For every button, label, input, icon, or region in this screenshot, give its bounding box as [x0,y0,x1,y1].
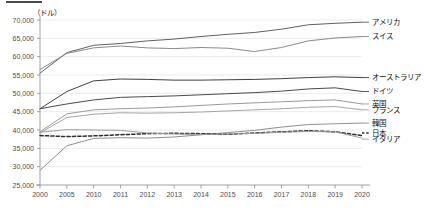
series-line-4 [40,100,362,132]
x-tick-label: 2013 [166,191,182,198]
series-label-6: 韓国 [372,118,386,128]
series-label-2: オーストラリア [372,73,421,82]
x-tick-label: 2010 [86,191,102,198]
y-tick-label: 60,000 [13,53,35,60]
gdp-per-capita-line-chart: 25,00030,00035,00040,00045,00050,00055,0… [0,0,424,208]
x-tick-label: 2000 [32,191,48,198]
y-tick-label: 35,000 [13,145,35,152]
y-axis-unit-label: （ドル） [33,9,61,18]
x-tick-labels: 2000200520102011201220132014201520162017… [32,191,370,198]
y-tick-marks [37,20,40,185]
x-tick-label: 2019 [327,191,343,198]
chart-canvas: 25,00030,00035,00040,00045,00050,00055,0… [0,0,424,208]
series-legend-labels: アメリカスイスオーストラリアドイツ英国フランス韓国日本イタリア [372,18,421,144]
series-label-3: ドイツ [372,87,393,96]
y-tick-labels: 25,00030,00035,00040,00045,00050,00055,0… [13,17,35,189]
x-tick-label: 2005 [59,191,75,198]
series-line-2 [40,77,362,109]
x-tick-label: 2016 [247,191,263,198]
series-label-1: スイス [372,32,393,41]
y-tick-label: 65,000 [13,35,35,42]
x-tick-label: 2015 [220,191,236,198]
x-tick-label: 2011 [113,191,128,198]
series-label-0: アメリカ [372,18,400,27]
y-tick-label: 30,000 [13,163,35,170]
x-tick-label: 2018 [301,191,317,198]
x-tick-label: 2014 [193,191,209,198]
x-tick-label: 2012 [140,191,156,198]
x-tick-label: 2020 [354,191,370,198]
y-tick-label: 55,000 [13,72,35,79]
y-tick-label: 40,000 [13,127,35,134]
y-tick-label: 25,000 [13,182,35,189]
y-tick-label: 50,000 [13,90,35,97]
series-line-1 [40,37,362,70]
series-label-5: フランス [372,106,400,115]
x-tick-label: 2017 [274,191,290,198]
series-label-8: イタリア [372,135,400,144]
y-tick-label: 45,000 [13,108,35,115]
gridlines-group [40,20,362,167]
y-tick-label: 70,000 [13,17,35,24]
x-tick-marks [40,185,362,189]
